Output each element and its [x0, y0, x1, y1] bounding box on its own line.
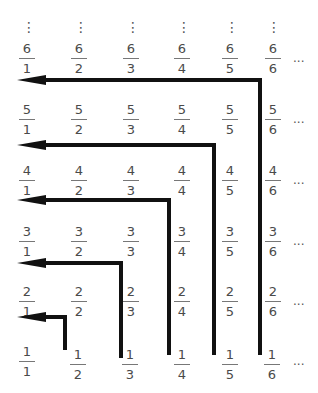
arrowhead-left-icon	[17, 195, 46, 205]
arrowhead-left-icon	[17, 140, 46, 150]
arrowhead-left-icon	[17, 312, 46, 322]
arrow-2-path	[40, 263, 121, 358]
arrowhead-left-icon	[17, 258, 46, 268]
arrow-5-path	[40, 80, 260, 355]
arrow-1-path	[40, 317, 65, 350]
arrow-layer	[0, 0, 318, 393]
arrowhead-left-icon	[17, 75, 46, 85]
rational-enumeration-diagram: ⋮ ⋮ ⋮ ⋮ ⋮ ⋮ 61 62 63 64 65 66 ··· 51 52 …	[0, 0, 318, 393]
arrow-3-path	[40, 200, 169, 355]
